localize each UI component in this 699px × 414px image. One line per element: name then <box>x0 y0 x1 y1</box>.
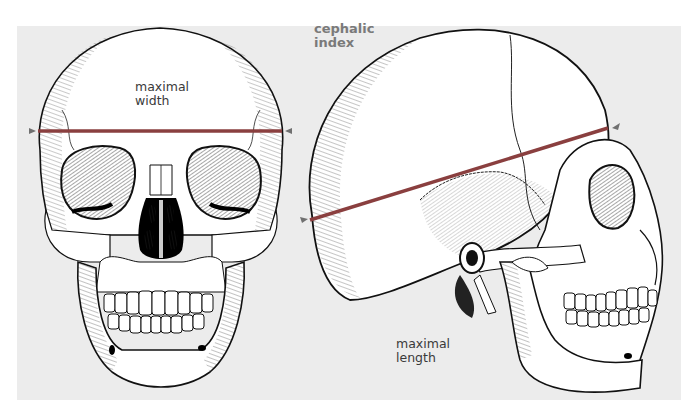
width-label-line-1: maximal <box>135 80 189 94</box>
length-label-line-1: maximal <box>396 337 450 351</box>
cephalic-index-figure <box>0 0 699 414</box>
title-line-2: index <box>314 36 374 50</box>
maximal-length-label: maximal length <box>396 337 450 365</box>
arrow-marker-icon <box>285 128 292 134</box>
figure-title: cephalic index <box>314 22 374 50</box>
arrow-marker-icon <box>612 123 620 130</box>
title-line-1: cephalic <box>314 22 374 36</box>
arrow-marker-icon <box>300 217 308 223</box>
arrow-marker-icon <box>29 128 36 134</box>
maximal-width-label: maximal width <box>135 80 189 108</box>
lateral-skull-illustration <box>309 30 662 392</box>
width-label-line-2: width <box>135 94 189 108</box>
length-label-line-2: length <box>396 351 450 365</box>
